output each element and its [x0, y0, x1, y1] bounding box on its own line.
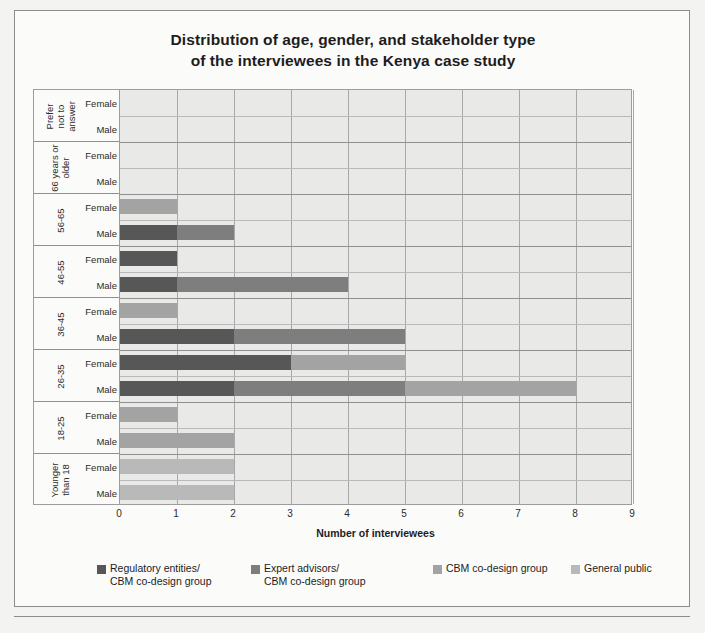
age-group-cell: Prefernot toanswerFemaleMale	[34, 90, 121, 142]
bar-row	[120, 376, 633, 402]
category-axis: Prefernot toanswerFemaleMale66 years oro…	[33, 89, 120, 505]
x-gridline	[633, 90, 634, 504]
age-group-cell: 66 years orolderFemaleMale	[34, 142, 121, 194]
age-group-cell: 36-45FemaleMale	[34, 298, 121, 350]
x-tick-label: 2	[218, 508, 248, 519]
bar-row	[120, 402, 633, 428]
chart-figure-frame: Distribution of age, gender, and stakeho…	[14, 10, 690, 607]
gender-label-female: Female	[77, 194, 117, 220]
x-tick-label: 5	[389, 508, 419, 519]
bar-segment	[177, 225, 234, 240]
age-group-cell: 26-35FemaleMale	[34, 350, 121, 402]
gender-label-group: FemaleMale	[77, 90, 117, 142]
gender-label-male: Male	[77, 272, 117, 298]
gender-label-group: FemaleMale	[77, 246, 117, 298]
legend-item[interactable]: Expert advisors/ CBM co-design group	[251, 562, 366, 588]
x-tick-label: 8	[560, 508, 590, 519]
bar-row	[120, 272, 633, 298]
bar-segment	[177, 277, 348, 292]
bar-segment	[120, 433, 234, 448]
legend-swatch	[97, 565, 106, 574]
x-axis-tick-labels: 0123456789	[119, 508, 632, 524]
bar-row	[120, 428, 633, 454]
bar-segment	[120, 329, 234, 344]
plot-area	[119, 89, 632, 505]
age-group-cell: 56-65FemaleMale	[34, 194, 121, 246]
gender-label-male: Male	[77, 116, 117, 142]
legend-swatch	[433, 565, 442, 574]
gender-label-female: Female	[77, 246, 117, 272]
bar-segment	[120, 303, 177, 318]
x-tick-label: 7	[503, 508, 533, 519]
legend-item[interactable]: Regulatory entities/ CBM co-design group	[97, 562, 212, 588]
bar-row	[120, 454, 633, 480]
bar-row	[120, 194, 633, 220]
gender-label-female: Female	[77, 142, 117, 168]
page-bottom-rule	[14, 616, 690, 633]
gender-label-male: Male	[77, 428, 117, 454]
age-group-cell: 46-55FemaleMale	[34, 246, 121, 298]
age-group-cell: 18-25FemaleMale	[34, 402, 121, 454]
gender-label-female: Female	[77, 350, 117, 376]
bar-segment	[405, 381, 576, 396]
legend-swatch	[571, 565, 580, 574]
bar-segment	[120, 381, 234, 396]
x-tick-label: 9	[617, 508, 647, 519]
bar-row	[120, 90, 633, 116]
bar-segment	[120, 225, 177, 240]
chart-legend: Regulatory entities/ CBM co-design group…	[15, 562, 691, 602]
bar-segment	[120, 459, 234, 474]
gender-label-male: Male	[77, 168, 117, 194]
gender-label-group: FemaleMale	[77, 350, 117, 402]
x-tick-label: 3	[275, 508, 305, 519]
bar-row	[120, 220, 633, 246]
gender-label-male: Male	[77, 480, 117, 506]
legend-label: General public	[584, 562, 652, 575]
legend-swatch	[251, 565, 260, 574]
age-group-cell: Youngerthan 18FemaleMale	[34, 454, 121, 506]
chart-title-line-1: Distribution of age, gender, and stakeho…	[15, 29, 691, 50]
bar-row	[120, 324, 633, 350]
gender-label-female: Female	[77, 402, 117, 428]
bar-segment	[120, 355, 291, 370]
legend-label: CBM co-design group	[446, 562, 548, 575]
x-tick-label: 4	[332, 508, 362, 519]
gender-label-group: FemaleMale	[77, 298, 117, 350]
gender-label-male: Male	[77, 376, 117, 402]
gender-label-group: FemaleMale	[77, 142, 117, 194]
bar-segment	[120, 251, 177, 266]
gender-label-female: Female	[77, 90, 117, 116]
legend-label: Expert advisors/ CBM co-design group	[264, 562, 366, 588]
bar-segment	[120, 277, 177, 292]
bar-segment	[120, 407, 177, 422]
bar-row	[120, 298, 633, 324]
x-tick-label: 6	[446, 508, 476, 519]
legend-label: Regulatory entities/ CBM co-design group	[110, 562, 212, 588]
gender-label-male: Male	[77, 220, 117, 246]
x-tick-label: 0	[104, 508, 134, 519]
gender-label-female: Female	[77, 454, 117, 480]
legend-item[interactable]: General public	[571, 562, 652, 575]
bar-row	[120, 142, 633, 168]
chart-title: Distribution of age, gender, and stakeho…	[15, 29, 691, 71]
bar-row	[120, 246, 633, 272]
bar-segment	[120, 485, 234, 500]
x-axis-title: Number of interviewees	[119, 527, 632, 539]
bar-segment	[234, 329, 405, 344]
gender-label-male: Male	[77, 324, 117, 350]
gender-label-group: FemaleMale	[77, 402, 117, 454]
bar-row	[120, 350, 633, 376]
bar-row	[120, 168, 633, 194]
bar-segment	[234, 381, 405, 396]
bar-row	[120, 480, 633, 506]
bar-segment	[120, 199, 177, 214]
chart-title-line-2: of the interviewees in the Kenya case st…	[15, 50, 691, 71]
x-tick-label: 1	[161, 508, 191, 519]
bar-row	[120, 116, 633, 142]
bar-segment	[291, 355, 405, 370]
gender-label-female: Female	[77, 298, 117, 324]
gender-label-group: FemaleMale	[77, 194, 117, 246]
legend-item[interactable]: CBM co-design group	[433, 562, 548, 575]
gender-label-group: FemaleMale	[77, 454, 117, 506]
